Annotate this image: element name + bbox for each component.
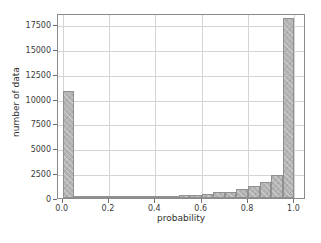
x-axis-tick-label: 0.4 (148, 204, 161, 213)
x-axis-label: probability (57, 213, 305, 223)
histogram-bar (155, 196, 167, 198)
histogram-bar (109, 196, 121, 198)
histogram-bar (97, 196, 109, 198)
histogram-bar (260, 182, 272, 198)
y-axis-tick-label: 5000 (31, 145, 51, 154)
histogram-bar (74, 196, 86, 198)
histogram-bar (225, 192, 237, 198)
histogram-bar (283, 18, 295, 198)
x-axis-tick-label: 1.0 (287, 204, 300, 213)
x-axis-tick (293, 199, 294, 203)
histogram-bar (63, 91, 75, 198)
y-axis-tick-label: 7500 (31, 120, 51, 129)
histogram-bar (213, 192, 225, 198)
histogram-bar (202, 194, 214, 198)
histogram-bar (167, 196, 179, 198)
y-axis-tick-label: 10000 (26, 95, 51, 104)
histogram-figure: 025005000750010000125001500017500 0.00.2… (0, 0, 321, 243)
x-axis-tick (247, 199, 248, 203)
histogram-bar (236, 189, 248, 198)
x-axis-tick-label: 0.0 (55, 204, 68, 213)
histogram-bar (132, 196, 144, 198)
histogram-bar (179, 195, 191, 198)
y-axis-tick-label: 0 (46, 195, 51, 204)
histogram-bar (190, 195, 202, 198)
y-axis-tick-label: 2500 (31, 170, 51, 179)
histogram-bar (121, 196, 133, 198)
plot-area (57, 14, 305, 199)
x-axis-tick-label: 0.2 (102, 204, 115, 213)
x-axis-tick (154, 199, 155, 203)
x-axis-tick (108, 199, 109, 203)
x-axis-tick-label: 0.8 (241, 204, 254, 213)
histogram-bar (248, 186, 260, 198)
histogram-bar (144, 196, 156, 198)
y-axis-tick-label: 12500 (26, 70, 51, 79)
y-axis-label: number of data (11, 47, 21, 157)
histogram-bar (271, 175, 283, 198)
histogram-bar (86, 196, 98, 198)
x-axis-tick (62, 199, 63, 203)
x-axis-tick-label: 0.6 (194, 204, 207, 213)
x-axis-tick (201, 199, 202, 203)
y-axis-tick-label: 15000 (26, 45, 51, 54)
bars-layer (58, 15, 304, 198)
y-axis-tick-zone: 025005000750010000125001500017500 (0, 14, 57, 199)
y-axis-tick-label: 17500 (26, 20, 51, 29)
